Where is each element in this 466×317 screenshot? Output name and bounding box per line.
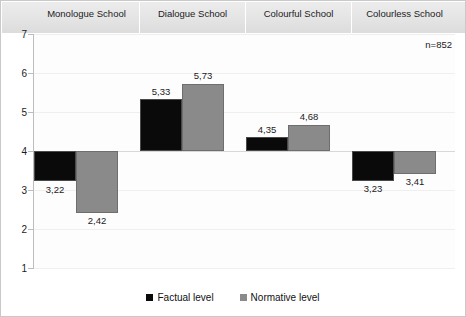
bar-factual-dialogue-school (140, 99, 182, 151)
legend-label-factual-level: Factual level (157, 292, 213, 303)
bar-normative-monologue-school (76, 151, 118, 213)
legend-item-normative-level: Normative level (240, 292, 320, 303)
bar-normative-dialogue-school (182, 84, 224, 152)
bar-normative-colourless-school (394, 151, 436, 174)
bar-label-normative-dialogue-school: 5,73 (182, 70, 224, 81)
square-black-icon (146, 294, 153, 301)
gridline-5 (34, 112, 455, 113)
bar-label-normative-colourless-school: 3,41 (394, 176, 436, 187)
bar-factual-monologue-school (34, 151, 76, 181)
bar-label-normative-colourful-school: 4,68 (288, 111, 330, 122)
y-tick-label-1: 1 (5, 263, 27, 274)
legend-item-factual-level: Factual level (146, 292, 213, 303)
bar-factual-colourless-school (352, 151, 394, 181)
bar-label-factual-colourful-school: 4,35 (246, 124, 288, 135)
legend-label-normative-level: Normative level (251, 292, 320, 303)
gridline-1 (34, 268, 455, 269)
category-label-colourless-school: Colourless School (352, 8, 457, 19)
category-label-colourful-school: Colourful School (246, 8, 351, 19)
sample-size-annotation: n=852 (425, 39, 452, 50)
y-tick-label-5: 5 (5, 107, 27, 118)
chart-legend: Factual level Normative level (1, 292, 465, 303)
y-tick-label-7: 7 (5, 29, 27, 40)
bar-normative-colourful-school (288, 125, 330, 152)
y-tick-label-3: 3 (5, 185, 27, 196)
y-tick-label-6: 6 (5, 68, 27, 79)
y-tick-label-2: 2 (5, 224, 27, 235)
category-label-monologue-school: Monologue School (34, 8, 139, 19)
gridline-7 (34, 34, 455, 35)
y-tick-label-4: 4 (5, 146, 27, 157)
bar-label-factual-dialogue-school: 5,33 (140, 86, 182, 97)
gridline-6 (34, 73, 455, 74)
bar-factual-colourful-school (246, 137, 288, 151)
bar-label-factual-colourless-school: 3,23 (352, 183, 394, 194)
category-label-dialogue-school: Dialogue School (140, 8, 245, 19)
bar-label-factual-monologue-school: 3,22 (34, 184, 76, 195)
bar-label-normative-monologue-school: 2,42 (76, 215, 118, 226)
bar-chart: Monologue School Dialogue School Colourf… (0, 0, 466, 317)
gridline-2 (34, 229, 455, 230)
square-gray-icon (240, 294, 247, 301)
plot-area: 3,22 2,42 5,33 5,73 4,35 4,68 3,23 3,41 (34, 34, 455, 268)
